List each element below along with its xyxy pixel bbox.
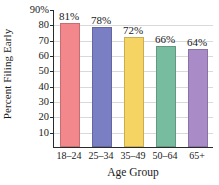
bar xyxy=(188,49,208,147)
bar-value-label: 81% xyxy=(59,11,79,22)
bar-value-label: 64% xyxy=(187,37,207,48)
y-axis-tick-label: 20 xyxy=(39,112,50,123)
y-axis-tick-label: 40 xyxy=(39,81,50,92)
y-axis-title-text: Percent Filing Early xyxy=(1,29,13,120)
bar-chart: Percent Filing Early 90%8070605040302010… xyxy=(0,0,219,185)
y-axis-tick-label: 80 xyxy=(39,20,50,31)
y-axis-tick-label: 60 xyxy=(39,51,50,62)
x-axis-tick-label: 35–49 xyxy=(121,151,146,161)
y-axis-tick-labels: 90%8070605040302010 xyxy=(14,0,51,148)
x-axis-title: Age Group xyxy=(53,166,213,178)
bar-value-label: 78% xyxy=(91,15,111,26)
bar-value-label: 66% xyxy=(155,34,175,45)
y-axis-tick-mark xyxy=(50,133,54,134)
x-axis-tick-label: 18–24 xyxy=(57,151,82,161)
bar xyxy=(124,37,144,147)
x-axis-tick-label: 50–64 xyxy=(153,151,178,161)
bar xyxy=(60,23,80,147)
y-axis-tick-label: 10 xyxy=(39,127,50,138)
y-axis-tick-label: 30 xyxy=(39,97,50,108)
y-axis-tick-label: 50 xyxy=(39,66,50,77)
y-axis-tick-mark xyxy=(50,102,54,103)
x-axis-tick-label: 65+ xyxy=(189,151,205,161)
y-axis-tick-mark xyxy=(50,25,54,26)
y-axis-tick-mark xyxy=(50,117,54,118)
bar-value-label: 72% xyxy=(123,25,143,36)
bar xyxy=(156,46,176,147)
y-axis-title: Percent Filing Early xyxy=(0,0,14,148)
y-axis-tick-mark xyxy=(50,56,54,57)
y-axis-tick-mark xyxy=(50,87,54,88)
y-axis-tick-mark xyxy=(50,71,54,72)
y-axis-tick-label: 90% xyxy=(30,5,49,16)
y-axis-tick-label: 70 xyxy=(39,35,50,46)
x-axis-tick-label: 25–34 xyxy=(89,151,114,161)
y-axis-tick-mark xyxy=(50,41,54,42)
bar xyxy=(92,27,112,147)
y-axis-tick-mark xyxy=(50,10,54,11)
